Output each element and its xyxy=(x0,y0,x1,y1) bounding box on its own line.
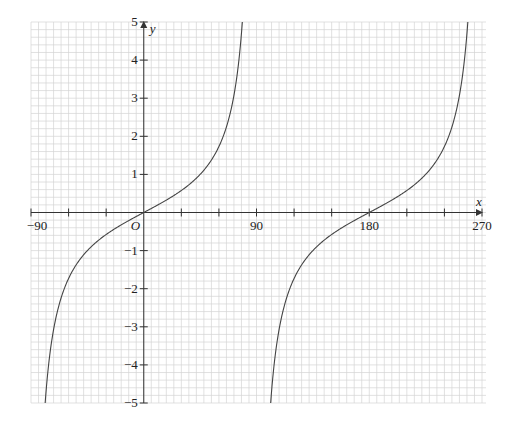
y-tick-label: −4 xyxy=(124,357,138,372)
x-tick-label: −90 xyxy=(27,218,47,233)
y-tick-label: −3 xyxy=(124,319,138,334)
y-tick-label: 5 xyxy=(131,14,138,29)
x-tick-label: 180 xyxy=(360,218,380,233)
y-tick-label: −1 xyxy=(124,243,138,258)
y-tick-label: −5 xyxy=(124,395,138,410)
x-tick-label: 90 xyxy=(250,218,263,233)
y-tick-label: 4 xyxy=(131,52,138,67)
y-tick-label: 2 xyxy=(131,128,138,143)
origin-label: O xyxy=(131,218,141,233)
y-tick-label: 1 xyxy=(131,166,138,181)
y-axis-name: y xyxy=(148,21,156,36)
y-tick-label: −2 xyxy=(124,281,138,296)
x-tick-label: 270 xyxy=(472,218,492,233)
x-axis-name: x xyxy=(475,194,482,209)
y-tick-label: 3 xyxy=(131,90,138,105)
tan-graph-figure: −909018027054321−1−2−3−4−5 O x y xyxy=(0,0,509,425)
